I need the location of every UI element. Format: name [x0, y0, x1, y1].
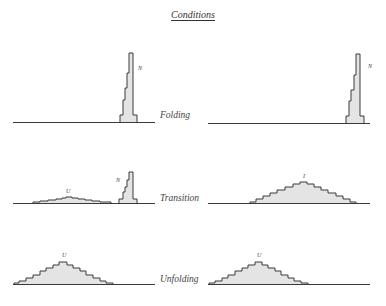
unfolded-peak-label: U — [66, 188, 71, 194]
histogram-figure: N N U N I U U — [0, 0, 386, 306]
panel-folding-left: N — [13, 53, 155, 123]
unfolded-histogram — [209, 262, 308, 285]
panel-unfolding-left: U — [13, 252, 155, 285]
unfolded-histogram — [14, 262, 113, 285]
native-peak-label: N — [115, 177, 121, 183]
unfolded-histogram — [33, 197, 111, 204]
panel-transition-right: I — [208, 173, 370, 204]
native-histogram — [346, 54, 364, 124]
intermediate-peak-label: I — [302, 173, 306, 179]
unfolded-peak-label: U — [62, 252, 67, 258]
intermediate-histogram — [250, 182, 356, 204]
native-peak-label: N — [367, 63, 373, 69]
panel-transition-left: U N — [13, 172, 155, 204]
native-peak-label: N — [137, 65, 143, 71]
unfolded-peak-label: U — [257, 252, 262, 258]
panel-folding-right: N — [208, 54, 373, 124]
native-histogram — [119, 172, 137, 204]
native-histogram — [120, 53, 137, 123]
panel-unfolding-right: U — [208, 252, 370, 285]
